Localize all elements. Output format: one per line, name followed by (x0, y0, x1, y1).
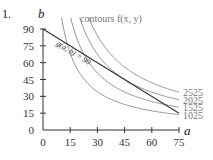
y-axis-label: b (38, 6, 45, 21)
y-tick-label: 0 (29, 124, 35, 136)
x-tick-label: 60 (146, 136, 158, 148)
x-axis-label: a (184, 123, 191, 138)
axes: 015304560750153045607590 (23, 23, 185, 148)
x-tick-label: 15 (65, 136, 77, 148)
y-tick-label: 45 (23, 74, 35, 86)
y-tick-label: 90 (23, 23, 35, 35)
y-tick-label: 15 (23, 107, 35, 119)
x-tick-label: 30 (92, 136, 104, 148)
x-tick-label: 45 (119, 136, 131, 148)
x-tick-label: 0 (40, 136, 46, 148)
chart-title: contours f(x, y) (80, 13, 142, 25)
contour-curves (62, 18, 179, 115)
contour-label-2525: 2525 (183, 87, 203, 98)
contour-labels: 1025152520252525 (183, 87, 203, 120)
y-tick-label: 30 (23, 90, 35, 102)
contour-2525 (89, 18, 179, 92)
contour-chart: g(a, b) = 90 015304560750153045607590 1.… (0, 0, 213, 160)
contour-1025 (62, 18, 179, 115)
y-tick-label: 75 (23, 40, 35, 52)
y-tick-label: 60 (23, 57, 35, 69)
problem-number: 1. (2, 7, 11, 21)
